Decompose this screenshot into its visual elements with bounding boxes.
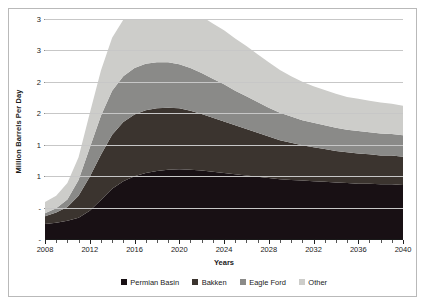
x-tick-minor: [67, 240, 68, 243]
x-tick-major: [403, 240, 404, 244]
x-tick-minor: [213, 240, 214, 243]
legend-swatch-icon: [240, 279, 246, 285]
gridline: [45, 82, 403, 83]
legend-swatch-icon: [121, 279, 127, 285]
gridline: [45, 113, 403, 114]
x-tick-minor: [291, 240, 292, 243]
x-tick-minor: [112, 240, 113, 243]
x-tick-minor: [369, 240, 370, 243]
x-tick-minor: [168, 240, 169, 243]
legend-swatch-icon: [299, 279, 305, 285]
x-axis-ticks: [45, 240, 403, 244]
x-tick-label: 2032: [294, 245, 334, 254]
legend-label: Other: [308, 278, 327, 287]
legend-item: Permian Basin: [121, 278, 179, 287]
legend-item: Eagle Ford: [240, 278, 286, 287]
legend-label: Eagle Ford: [249, 278, 286, 287]
x-tick-minor: [280, 240, 281, 243]
x-tick-minor: [258, 240, 259, 243]
x-tick-major: [358, 240, 359, 244]
x-tick-minor: [246, 240, 247, 243]
x-tick-major: [45, 240, 46, 244]
chart-legend: Permian BasinBakkenEagle FordOther: [45, 275, 403, 289]
legend-label: Permian Basin: [130, 278, 179, 287]
x-tick-major: [269, 240, 270, 244]
x-tick-minor: [190, 240, 191, 243]
x-axis-title: Years: [45, 258, 403, 267]
x-tick-minor: [101, 240, 102, 243]
x-tick-label: 2016: [115, 245, 155, 254]
gridline: [45, 145, 403, 146]
x-tick-minor: [347, 240, 348, 243]
x-tick-label: 2036: [338, 245, 378, 254]
x-tick-label: 2028: [249, 245, 289, 254]
gridline: [45, 19, 403, 20]
x-tick-minor: [392, 240, 393, 243]
x-tick-minor: [381, 240, 382, 243]
x-tick-label: 2040: [383, 245, 423, 254]
legend-swatch-icon: [192, 279, 198, 285]
x-tick-minor: [336, 240, 337, 243]
x-tick-label: 2024: [204, 245, 244, 254]
x-tick-major: [135, 240, 136, 244]
x-tick-minor: [235, 240, 236, 243]
x-tick-major: [179, 240, 180, 244]
gridline: [45, 176, 403, 177]
legend-item: Other: [299, 278, 327, 287]
stacked-area-svg: [45, 19, 403, 239]
x-tick-minor: [146, 240, 147, 243]
x-tick-minor: [123, 240, 124, 243]
gridline: [45, 50, 403, 51]
x-tick-minor: [56, 240, 57, 243]
x-tick-major: [314, 240, 315, 244]
x-tick-label: 2008: [25, 245, 65, 254]
x-tick-minor: [157, 240, 158, 243]
x-tick-minor: [79, 240, 80, 243]
x-tick-major: [90, 240, 91, 244]
plot-area: [45, 19, 403, 239]
chart-figure: Million Barrels Per Day 332211-- Years P…: [0, 0, 426, 308]
gridline: [45, 208, 403, 209]
x-tick-label: 2012: [70, 245, 110, 254]
x-tick-minor: [302, 240, 303, 243]
legend-label: Bakken: [202, 278, 227, 287]
legend-item: Bakken: [192, 278, 227, 287]
x-tick-minor: [202, 240, 203, 243]
x-tick-major: [224, 240, 225, 244]
x-tick-minor: [325, 240, 326, 243]
x-tick-label: 2020: [159, 245, 199, 254]
